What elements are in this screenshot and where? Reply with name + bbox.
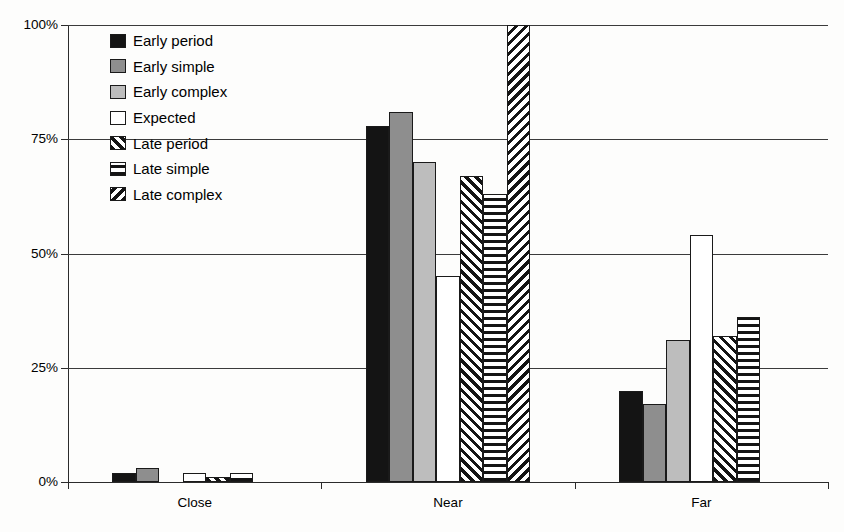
y-tick-mark — [61, 482, 68, 483]
bar-near-early-period — [366, 126, 390, 482]
x-tick-mark — [321, 482, 322, 489]
x-tick-mark — [575, 482, 576, 489]
bar-close-early-period — [112, 473, 136, 482]
bar-near-late-period — [460, 176, 484, 482]
solid-dark-gray-swatch — [110, 59, 126, 73]
x-tick-label-close: Close — [177, 496, 212, 510]
bar-near-early-complex — [413, 162, 437, 482]
y-tick-label: 75% — [0, 133, 58, 147]
legend-label: Expected — [133, 110, 196, 125]
horizontal-lines-swatch — [110, 162, 126, 176]
bar-near-late-simple — [483, 194, 507, 482]
diagonal-back-swatch — [110, 187, 126, 201]
legend-item-expected[interactable]: Expected — [110, 105, 227, 131]
bar-far-early-simple — [643, 404, 667, 482]
bar-close-early-simple — [136, 468, 160, 482]
y-tick-label: 50% — [0, 247, 58, 261]
y-tick-label: 0% — [0, 475, 58, 489]
diagonal-forward-swatch — [110, 136, 126, 150]
legend-item-late-simple[interactable]: Late simple — [110, 156, 227, 182]
solid-black-swatch — [110, 34, 126, 48]
legend-item-early-complex[interactable]: Early complex — [110, 79, 227, 105]
legend-item-early-period[interactable]: Early period — [110, 28, 227, 54]
bar-close-expected — [183, 473, 207, 482]
y-tick-mark — [61, 25, 68, 26]
bar-far-early-complex — [666, 340, 690, 482]
y-tick-label: 25% — [0, 361, 58, 375]
legend-label: Late complex — [133, 187, 222, 202]
bar-near-early-simple — [389, 112, 413, 482]
y-tick-mark — [61, 139, 68, 140]
legend-label: Early complex — [133, 84, 227, 99]
bar-close-late-simple — [230, 473, 254, 482]
legend-item-late-period[interactable]: Late period — [110, 130, 227, 156]
legend-label: Early simple — [133, 59, 215, 74]
gridline-100 — [68, 25, 828, 26]
legend-item-early-simple[interactable]: Early simple — [110, 54, 227, 80]
y-tick-label: 100% — [0, 18, 58, 32]
bar-far-late-simple — [737, 317, 761, 482]
y-tick-mark — [61, 368, 68, 369]
x-tick-label-far: Far — [691, 496, 711, 510]
bar-chart: 100%75%50%25%0% CloseNearFar Early perio… — [0, 0, 844, 532]
legend-label: Late simple — [133, 161, 210, 176]
bar-near-expected — [436, 276, 460, 482]
legend: Early periodEarly simpleEarly complexExp… — [110, 28, 227, 207]
legend-label: Early period — [133, 33, 213, 48]
solid-white-swatch — [110, 111, 126, 125]
y-tick-mark — [61, 254, 68, 255]
gridline-0 — [68, 482, 828, 483]
solid-light-gray-swatch — [110, 85, 126, 99]
bar-close-late-period — [206, 477, 230, 482]
bar-far-expected — [690, 235, 714, 482]
gridline-50 — [68, 254, 828, 255]
x-tick-label-near: Near — [433, 496, 462, 510]
x-tick-mark — [68, 482, 69, 489]
legend-label: Late period — [133, 136, 208, 151]
legend-item-late-complex[interactable]: Late complex — [110, 182, 227, 208]
x-tick-mark — [828, 482, 829, 489]
bar-far-late-period — [713, 336, 737, 482]
bar-near-late-complex — [507, 25, 531, 482]
bar-far-early-period — [619, 391, 643, 482]
